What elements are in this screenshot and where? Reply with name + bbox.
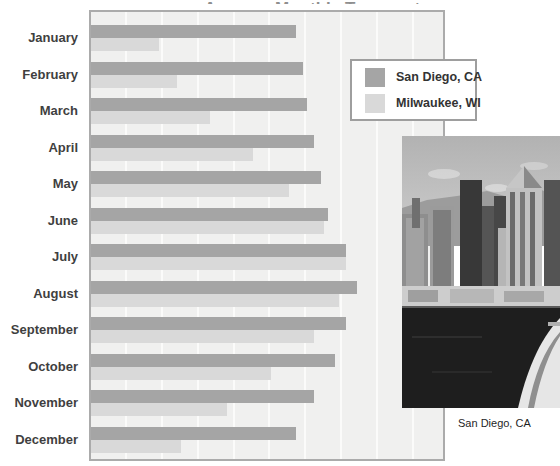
bar-san-diego: [91, 171, 321, 184]
bar-san-diego: [91, 281, 357, 294]
bar-milwaukee: [91, 403, 227, 416]
bar-san-diego: [91, 317, 346, 330]
san-diego-photo: [402, 136, 560, 408]
bar-milwaukee: [91, 294, 339, 307]
month-label: July: [0, 249, 78, 265]
bar-san-diego: [91, 98, 307, 111]
san-diego-skyline-illustration: [402, 136, 560, 408]
month-label: April: [0, 140, 78, 156]
legend-label-milwaukee: Milwaukee, WI: [396, 96, 481, 110]
chart-page: Average Monthly Temperatures JanuaryFebr…: [0, 0, 560, 466]
bar-san-diego: [91, 354, 335, 367]
bar-milwaukee: [91, 38, 159, 51]
chart-title-clipped: Average Monthly Temperatures: [180, 0, 480, 4]
month-label: May: [0, 176, 78, 192]
bar-san-diego: [91, 62, 303, 75]
legend-swatch-milwaukee: [365, 94, 385, 113]
bar-milwaukee: [91, 440, 181, 453]
bar-san-diego: [91, 244, 346, 257]
chart-title-text: Average Monthly Temperatures: [204, 0, 456, 4]
month-label: June: [0, 213, 78, 229]
bar-san-diego: [91, 135, 314, 148]
month-label: August: [0, 286, 78, 302]
bar-milwaukee: [91, 221, 324, 234]
legend-entry-milwaukee: Milwaukee, WI: [365, 94, 475, 113]
legend-swatch-san-diego: [365, 68, 385, 87]
month-label: January: [0, 30, 78, 46]
month-label: October: [0, 359, 78, 375]
bar-milwaukee: [91, 111, 210, 124]
month-label: November: [0, 395, 78, 411]
legend-label-san-diego: San Diego, CA: [396, 70, 482, 84]
bar-milwaukee: [91, 257, 346, 270]
month-label: December: [0, 432, 78, 448]
month-label: March: [0, 103, 78, 119]
bar-milwaukee: [91, 148, 253, 161]
photo-caption: San Diego, CA: [458, 417, 531, 429]
bar-milwaukee: [91, 75, 177, 88]
bar-milwaukee: [91, 367, 271, 380]
bar-milwaukee: [91, 330, 314, 343]
bar-san-diego: [91, 390, 314, 403]
month-label: September: [0, 322, 78, 338]
bar-milwaukee: [91, 184, 289, 197]
legend-entry-san-diego: San Diego, CA: [365, 68, 475, 87]
month-label: February: [0, 67, 78, 83]
legend-box: San Diego, CA Milwaukee, WI: [350, 59, 477, 121]
bar-san-diego: [91, 427, 296, 440]
bar-san-diego: [91, 25, 296, 38]
bar-san-diego: [91, 208, 328, 221]
